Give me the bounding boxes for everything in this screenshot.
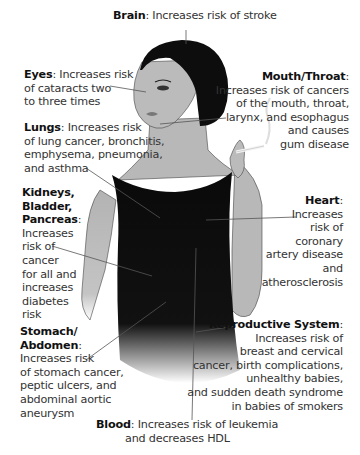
reproductive-system-callout: Reproductive System:Increases risk ofbre… [187, 318, 343, 413]
eyes-callout: Eyes: Increases riskof cataracts twoto t… [24, 68, 133, 109]
kidneys-bladder-pancreas-callout: Kidneys,Bladder,Pancreas:Increasesrisk o… [22, 186, 81, 322]
lungs-callout: Lungs: Increases riskof lung cancer, bro… [24, 121, 164, 175]
blood-callout: Blood: Increases risk of leukemiaand dec… [96, 418, 278, 445]
mouth-throat-callout: Mouth/Throat:Increases risk of cancersof… [216, 70, 349, 152]
brain-callout: Brain: Increases risk of stroke [113, 9, 277, 23]
stomach-abdomen-callout: Stomach/Abdomen:Increases riskof stomach… [20, 325, 124, 420]
left-arm [82, 190, 116, 320]
heart-callout: Heart:Increasesrisk ofcoronaryartery dis… [262, 194, 343, 289]
eye [157, 86, 169, 91]
right-arm [232, 160, 262, 317]
